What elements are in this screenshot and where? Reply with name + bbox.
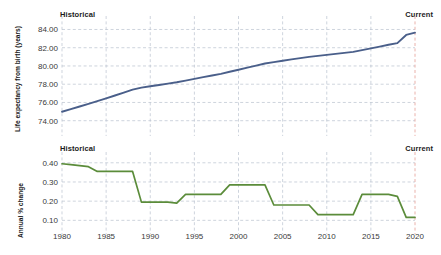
y-tick-label: 0.10 xyxy=(42,216,58,225)
annual-change-panel: Historical Current Annual % change 0.100… xyxy=(0,140,441,255)
x-tick-label: 2015 xyxy=(362,232,380,241)
annual-change-plot xyxy=(62,158,415,228)
x-tick-label: 1995 xyxy=(185,232,203,241)
life-expectancy-plot xyxy=(62,24,415,128)
x-tick-label: 1990 xyxy=(141,232,159,241)
y-axis-ticks-top: 74.0076.0078.0080.0082.0084.00 xyxy=(24,0,58,140)
x-tick-label: 2020 xyxy=(406,232,424,241)
y-axis-label-life-expectancy: Life expectancy from birth (years) xyxy=(14,26,21,132)
historical-label-bottom: Historical xyxy=(60,144,95,153)
current-label-top: Current xyxy=(405,10,433,19)
y-tick-label: 82.00 xyxy=(38,43,58,52)
current-label-bottom: Current xyxy=(405,144,433,153)
y-tick-label: 76.00 xyxy=(38,98,58,107)
y-tick-label: 0.30 xyxy=(42,177,58,186)
y-tick-label: 74.00 xyxy=(38,116,58,125)
y-tick-label: 78.00 xyxy=(38,80,58,89)
x-tick-label: 2000 xyxy=(230,232,248,241)
x-axis-ticks: 198019851990199520002005201020152020 xyxy=(62,232,415,246)
y-tick-label: 0.20 xyxy=(42,197,58,206)
y-tick-label: 84.00 xyxy=(38,25,58,34)
dual-line-chart-figure: Historical Current Life expectancy from … xyxy=(0,0,441,255)
y-tick-label: 80.00 xyxy=(38,61,58,70)
historical-label-top: Historical xyxy=(60,10,95,19)
x-tick-label: 1985 xyxy=(97,232,115,241)
x-tick-label: 2010 xyxy=(318,232,336,241)
y-axis-label-annual-change: Annual % change xyxy=(17,183,24,238)
life-expectancy-panel: Historical Current Life expectancy from … xyxy=(0,0,441,140)
y-tick-label: 0.40 xyxy=(42,158,58,167)
x-tick-label: 1980 xyxy=(53,232,71,241)
x-tick-label: 2005 xyxy=(274,232,292,241)
